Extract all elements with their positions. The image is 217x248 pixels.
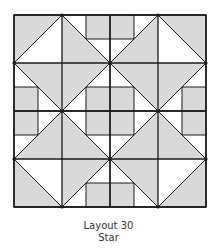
layout-title: Layout 30 xyxy=(0,220,217,232)
shaded-patch-top-right-2 xyxy=(110,15,134,39)
vertex-dot-6 xyxy=(156,109,159,112)
layout-name: Star xyxy=(0,232,217,244)
shaded-patch-top-left-6 xyxy=(86,87,110,111)
shaded-patch-top-right-6 xyxy=(110,87,134,111)
shaded-patch-bottom-right-4 xyxy=(182,111,206,135)
shaded-patch-top-left-4 xyxy=(14,87,38,111)
vertex-dot-2 xyxy=(12,61,15,64)
vertex-dot-11 xyxy=(156,205,159,208)
vertex-dot-9 xyxy=(204,157,207,160)
vertex-dot-1 xyxy=(156,13,159,16)
shaded-patch-bottom-right-2 xyxy=(110,183,134,207)
vertex-dot-0 xyxy=(60,13,63,16)
shaded-patch-bottom-left-4 xyxy=(14,111,38,135)
vertex-dot-7 xyxy=(12,157,15,160)
shaded-patch-bottom-left-2 xyxy=(86,183,110,207)
vertex-dot-8 xyxy=(108,157,111,160)
shaded-patch-top-left-2 xyxy=(86,15,110,39)
quilt-layout-diagram xyxy=(0,0,217,215)
vertex-dot-5 xyxy=(60,109,63,112)
shaded-patch-bottom-right-6 xyxy=(110,111,134,135)
vertex-dot-4 xyxy=(204,61,207,64)
vertex-dot-3 xyxy=(108,61,111,64)
shaded-patch-bottom-left-6 xyxy=(86,111,110,135)
vertex-dot-10 xyxy=(60,205,63,208)
shaded-patch-top-right-4 xyxy=(182,87,206,111)
